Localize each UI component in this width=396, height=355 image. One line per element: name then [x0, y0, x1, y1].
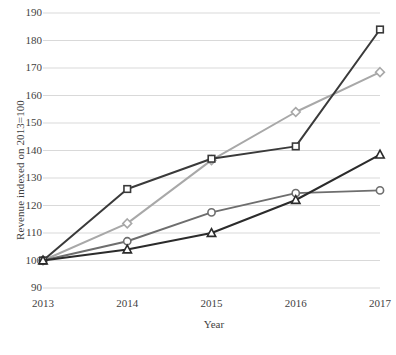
data-point-marker: [207, 229, 215, 237]
data-point-marker: [377, 26, 384, 33]
data-point-marker: [292, 196, 300, 204]
data-point-marker: [376, 68, 385, 77]
data-point-marker: [208, 209, 215, 216]
data-point-marker: [376, 150, 384, 158]
data-point-marker: [291, 108, 300, 117]
data-point-marker: [376, 187, 383, 194]
data-point-marker: [292, 143, 299, 150]
series-circle: [39, 187, 383, 264]
data-point-marker: [208, 155, 215, 162]
series-circle-line: [43, 190, 380, 260]
x-axis-label: Year: [20, 318, 396, 330]
x-axis-tick-label: 2014: [97, 298, 157, 309]
series-square-line: [43, 30, 380, 261]
series-triangle: [39, 150, 384, 264]
data-point-marker: [124, 186, 131, 193]
series-triangle-line: [43, 155, 380, 261]
x-axis-tick-label: 2013: [13, 298, 73, 309]
x-axis-tick-label: 2017: [350, 298, 396, 309]
x-axis-tick-label: 2015: [182, 298, 242, 309]
data-point-marker: [123, 245, 131, 253]
x-axis-tick-label: 2016: [266, 298, 326, 309]
